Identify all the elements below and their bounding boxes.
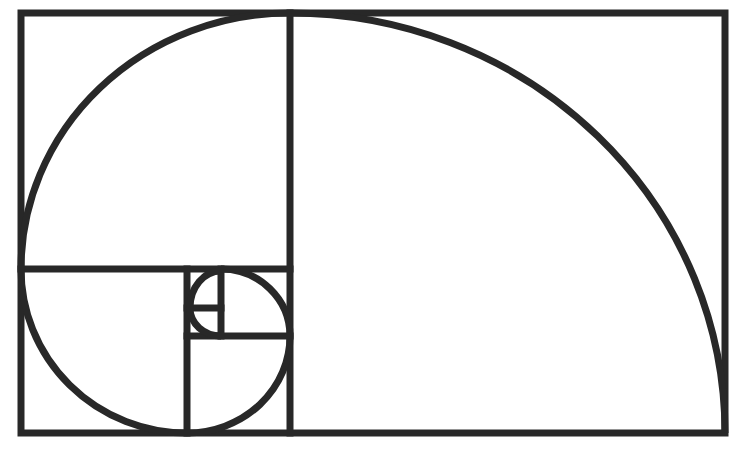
golden-spiral-diagram [0, 0, 742, 451]
outer-rectangle [21, 13, 725, 433]
arc-bottom-middle-square [187, 336, 290, 433]
arc-innermost-bottom [190, 308, 221, 336]
grid-lines [21, 13, 725, 433]
arc-innermost-top [190, 271, 221, 308]
arc-right-small-square [221, 269, 290, 336]
arc-large-square [290, 13, 725, 433]
spiral-arcs [21, 13, 725, 433]
arc-bottom-left-square [21, 269, 187, 433]
arc-top-left-square [21, 13, 290, 269]
